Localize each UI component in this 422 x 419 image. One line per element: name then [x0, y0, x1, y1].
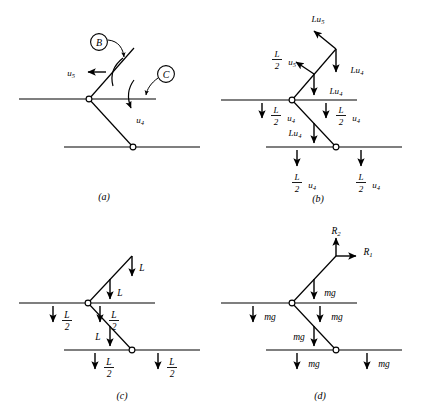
panel-b-Lu4-upper-label: Lu4 [350, 65, 365, 76]
svg-text:L: L [105, 357, 111, 367]
panel-c: L L L 2 L 2 L L 2 L [19, 256, 200, 402]
panel-d-right-beam-mg-label: mg [331, 312, 343, 322]
svg-text:u4: u4 [308, 180, 317, 191]
panel-a-joint-c-text: C [163, 69, 170, 80]
svg-text:2: 2 [170, 369, 175, 379]
svg-text:2: 2 [339, 117, 344, 127]
panel-b-halfL-u4-left-label: L 2 u4 [271, 105, 296, 127]
svg-text:u4: u4 [287, 113, 296, 124]
panel-b-halfL-u4-right-label: L 2 u4 [336, 105, 361, 127]
panel-d-upper-diagonal-mg-label: mg [324, 288, 336, 298]
svg-text:L: L [272, 105, 278, 115]
panel-a-u4-label: u4 [136, 115, 145, 126]
figure-container: B C u5 u4 (a) Lu5 [0, 0, 422, 419]
svg-text:L: L [293, 172, 299, 182]
svg-text:2: 2 [359, 184, 364, 194]
panel-d: R2 R1 mg mg mg mg mg mg (d) [221, 226, 402, 402]
panel-c-bottom-right-halfL-label: L 2 [167, 357, 177, 379]
panel-b-caption: (b) [312, 193, 324, 205]
svg-text:2: 2 [274, 117, 279, 127]
svg-text:2: 2 [275, 61, 280, 71]
panel-b-upper-pin-joint [289, 97, 295, 103]
panel-d-bottom-right-mg-label: mg [378, 359, 390, 369]
svg-text:L: L [357, 172, 363, 182]
panel-d-upper-pin-joint [289, 300, 295, 306]
svg-text:L: L [337, 105, 343, 115]
panel-a: B C u5 u4 (a) [19, 34, 200, 203]
panel-a-leader-c [146, 78, 158, 95]
svg-text:L: L [168, 357, 174, 367]
panel-a-caption: (a) [98, 191, 110, 203]
panel-d-left-beam-mg-label: mg [264, 312, 276, 322]
panel-d-lower-diagonal-mg-label: mg [293, 332, 305, 342]
panel-a-upper-pin-joint [86, 96, 92, 102]
panel-b-Lu4-mid-label: Lu4 [329, 86, 344, 97]
panel-b-Lu4-lower-label: Lu4 [288, 128, 303, 139]
panel-c-mid-L-label: L [116, 288, 122, 298]
svg-text:2: 2 [65, 322, 70, 332]
svg-text:L: L [273, 49, 279, 59]
panel-c-left-halfL-label: L 2 [62, 310, 72, 332]
svg-text:u5: u5 [288, 57, 297, 68]
svg-text:2: 2 [107, 369, 112, 379]
panel-b-lower-pin-joint [333, 144, 339, 150]
panel-b-halfL-u5-label: L 2 u5 [272, 49, 297, 71]
panel-a-lower-diagonal [89, 99, 133, 147]
panel-a-upper-diagonal [89, 48, 134, 99]
panel-a-leader-b [108, 40, 124, 57]
svg-text:u4: u4 [372, 180, 381, 191]
panel-d-bottom-left-mg-label: mg [308, 359, 320, 369]
panel-b-halfL-u4-bottom-right-label: L 2 u4 [356, 172, 381, 194]
panel-a-joint-b-text: B [96, 37, 102, 48]
svg-text:L: L [110, 310, 116, 320]
panel-c-upper-pin-joint [85, 300, 91, 306]
panel-d-lower-pin-joint [333, 347, 339, 353]
panel-a-u5-label: u5 [67, 68, 76, 79]
panel-c-bottom-left-halfL-label: L 2 [104, 357, 114, 379]
panel-b-Lu5-arrow [314, 31, 336, 49]
panel-c-lower-L-label: L [94, 332, 100, 342]
panel-d-R2-label: R2 [330, 226, 341, 237]
panel-c-caption: (c) [116, 390, 128, 402]
linkage-figure-svg: B C u5 u4 (a) Lu5 [0, 0, 422, 419]
panel-a-rotation-arc-lower [129, 80, 134, 108]
panel-b: Lu5 Lu4 L 2 u5 Lu4 L 2 u4 [221, 14, 402, 205]
panel-b-halfL-u4-bottom-left-label: L 2 u4 [292, 172, 317, 194]
panel-a-lower-pin-joint [130, 144, 136, 150]
panel-b-halfL-u5-arrow [296, 62, 314, 74]
panel-b-Lu5-label: Lu5 [311, 14, 326, 25]
panel-c-top-L-label: L [138, 263, 144, 273]
panel-c-lower-pin-joint [129, 347, 135, 353]
svg-text:u4: u4 [352, 113, 361, 124]
panel-d-R1-label: R1 [362, 247, 372, 258]
svg-text:L: L [63, 310, 69, 320]
svg-text:2: 2 [112, 322, 117, 332]
panel-d-caption: (d) [314, 390, 326, 402]
svg-text:2: 2 [295, 184, 300, 194]
